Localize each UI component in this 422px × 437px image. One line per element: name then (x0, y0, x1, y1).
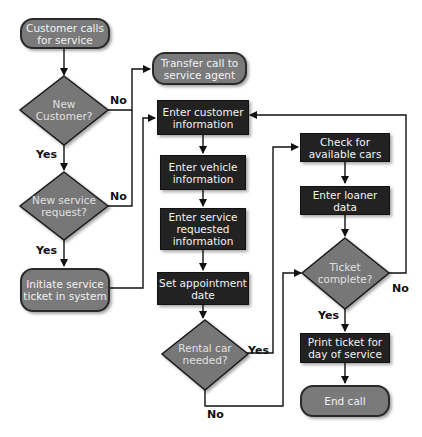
node-enter-service-label: Enter service requested information (161, 211, 245, 247)
node-enter-customer: Enter customer information (157, 100, 249, 135)
decision-rental: Rental car needed? (172, 340, 238, 368)
node-enter-service: Enter service requested information (160, 208, 246, 250)
node-transfer: Transfer call to service agent (152, 52, 247, 85)
decision-ticket-complete: Ticket complete? (312, 259, 378, 287)
node-enter-vehicle-label: Enter vehicle information (161, 161, 245, 185)
decision-new-request: New service request? (26, 192, 102, 220)
edge-label-new-request-yes: Yes (36, 244, 57, 257)
node-transfer-label: Transfer call to service agent (154, 57, 245, 81)
node-check-cars-label: Check for available cars (301, 136, 389, 160)
node-initiate: Initiate service ticket in system (20, 268, 110, 312)
edge-label-ticket-yes: Yes (318, 309, 339, 322)
node-check-cars: Check for available cars (300, 133, 390, 162)
node-enter-vehicle: Enter vehicle information (160, 155, 246, 190)
edge-label-new-customer-yes: Yes (36, 148, 57, 161)
node-end-label: End call (324, 395, 365, 407)
edge-label-ticket-no: No (392, 282, 409, 295)
node-loaner-label: Enter loaner data (301, 189, 389, 213)
edge-rental-yes (247, 147, 298, 353)
edge-label-new-customer-no: No (110, 94, 127, 107)
node-initiate-label: Initiate service ticket in system (22, 278, 108, 302)
edge-label-new-request-no: No (110, 190, 127, 203)
edge-label-rental-yes: Yes (248, 344, 269, 357)
node-loaner: Enter loaner data (300, 186, 390, 215)
node-set-date: Set appointment date (157, 272, 249, 305)
node-start-label: Customer calls for service (22, 22, 108, 46)
node-print: Print ticket for day of service (300, 333, 390, 363)
decision-new-request-label: New service request? (26, 194, 102, 218)
node-end: End call (300, 385, 390, 417)
edge-label-rental-no: No (207, 408, 224, 421)
decision-ticket-complete-label: Ticket complete? (312, 261, 378, 285)
decision-rental-label: Rental car needed? (172, 342, 238, 366)
node-print-label: Print ticket for day of service (301, 336, 389, 360)
node-start: Customer calls for service (20, 18, 110, 49)
decision-new-customer-label: New Customer? (26, 98, 102, 122)
node-enter-customer-label: Enter customer information (158, 106, 248, 130)
node-set-date-label: Set appointment date (158, 277, 248, 301)
decision-new-customer: New Customer? (26, 96, 102, 124)
